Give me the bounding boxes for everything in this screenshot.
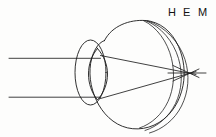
diagram-canvas <box>0 0 216 137</box>
eye-refraction-diagram: H E M <box>0 0 216 137</box>
retina-arc-e <box>145 21 181 131</box>
label-e: E <box>183 7 190 18</box>
refracted-ray-lower <box>101 72 197 99</box>
label-m: M <box>198 7 207 18</box>
label-h: H <box>168 7 176 18</box>
refracted-ray-upper <box>101 56 197 75</box>
retina-arc-h <box>140 21 174 128</box>
